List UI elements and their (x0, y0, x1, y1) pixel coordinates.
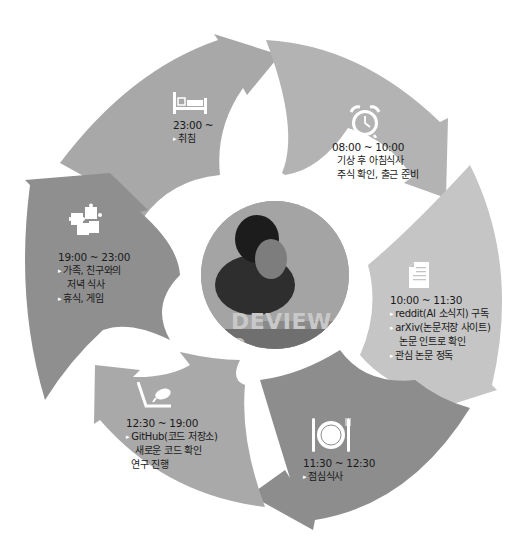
bullet-icon: ▸ (303, 473, 306, 481)
bullet-icon: ▸ (390, 352, 393, 360)
time-range: 08:00 ~ 10:00 (332, 140, 418, 154)
activity-item-continued: 논문 인트로 확인 (390, 335, 491, 349)
center-photo: DEVIEW 2 (201, 201, 349, 349)
segment-label-evening: 19:00 ~ 23:00 ▸가족, 친구와의 저녁 식사 ▸휴식, 게임 (58, 250, 130, 306)
alarm-clock-icon (349, 104, 381, 142)
time-range: 19:00 ~ 23:00 (58, 250, 130, 264)
segment-label-lunch: 11:30 ~ 12:30 ▸점심식사 (303, 456, 375, 484)
activity-item-continued: 새로운 코드 확인 (126, 444, 218, 458)
activity-item: ▸reddit(AI 소식지) 구독 (390, 307, 491, 321)
plate-cutlery-icon (311, 418, 351, 456)
segment-research-reading (360, 165, 502, 412)
center-banner-text: DEVIEW 2 (231, 309, 349, 349)
bullet-icon: ▸ (58, 295, 61, 303)
bullet-icon: ▸ (58, 267, 61, 275)
activity-item: ▸취침 (173, 132, 213, 146)
laptop-hand-icon (137, 382, 173, 414)
bed-icon (173, 92, 207, 118)
activity-item: ▸점심식사 (303, 470, 375, 484)
segment-label-research: 12:30 ~ 19:00 ▸GitHub(코드 저장소) 새로운 코드 확인 … (126, 416, 218, 472)
document-icon (409, 262, 429, 292)
activity-item: ▸가족, 친구와의 (58, 264, 130, 278)
activity-item: ▸기상 후 아침식사 (332, 154, 418, 168)
bullet-icon: ▸ (173, 135, 176, 143)
bullet-icon: ▸ (390, 324, 393, 332)
time-range: 11:30 ~ 12:30 (303, 456, 375, 470)
time-range: 23:00 ~ (173, 118, 213, 132)
activity-item: ▸arXiv(논문저장 사이트) (390, 321, 491, 335)
bullet-icon: ▸ (390, 310, 393, 318)
activity-item: ▸주식 확인, 출근 준비 (332, 168, 418, 182)
bullet-icon: ▸ (332, 171, 335, 179)
activity-item: ▸관심 논문 정독 (390, 349, 491, 363)
puzzle-icon (69, 203, 103, 241)
activity-item: ▸GitHub(코드 저장소) (126, 430, 218, 444)
segment-label-morning: 08:00 ~ 10:00 ▸기상 후 아침식사 ▸주식 확인, 출근 준비 (332, 140, 418, 182)
activity-item: ▸연구 진행 (126, 458, 218, 472)
bullet-icon: ▸ (332, 157, 335, 165)
time-range: 10:00 ~ 11:30 (390, 293, 491, 307)
segment-label-reading: 10:00 ~ 11:30 ▸reddit(AI 소식지) 구독 ▸arXiv(… (390, 293, 491, 363)
activity-item: ▸휴식, 게임 (58, 292, 130, 306)
time-range: 12:30 ~ 19:00 (126, 416, 218, 430)
bullet-icon: ▸ (126, 461, 129, 469)
activity-item-continued: 저녁 식사 (58, 278, 130, 292)
segment-label-sleep: 23:00 ~ ▸취침 (173, 118, 213, 146)
bullet-icon: ▸ (126, 433, 129, 441)
